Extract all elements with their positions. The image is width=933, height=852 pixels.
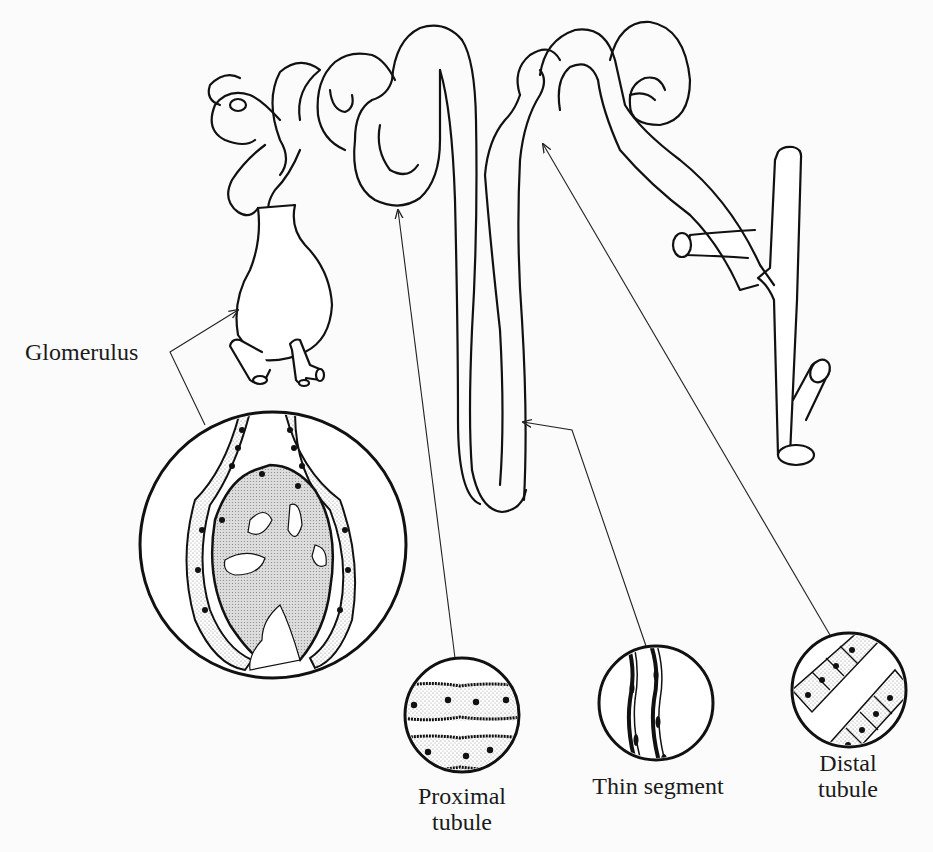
- proximal-tubule-inset: [400, 658, 524, 772]
- distal-tubule-inset: [792, 630, 912, 758]
- proximal-tubule-label-line1: Proximal: [402, 783, 522, 809]
- distal-tubule-label-line1: Distal: [800, 750, 896, 776]
- ascending-limb-outline: [518, 70, 544, 500]
- glomerulus-label: Glomerulus: [25, 339, 138, 365]
- distal-tubule-label-line2: tubule: [800, 776, 896, 802]
- bowmans-capsule: [237, 205, 333, 360]
- proximal-tubule-label: Proximal tubule: [402, 783, 522, 835]
- distal-tubule-label: Distal tubule: [800, 750, 896, 802]
- nephron-diagram: [0, 0, 933, 852]
- thin-segment-inset: [599, 645, 713, 766]
- proximal-tubule-label-line2: tubule: [402, 809, 522, 835]
- thin-segment-label: Thin segment: [573, 773, 743, 799]
- proximal-tubule-outline: [354, 26, 462, 206]
- glomerulus-inset: [140, 412, 406, 678]
- collecting-duct: [673, 147, 834, 465]
